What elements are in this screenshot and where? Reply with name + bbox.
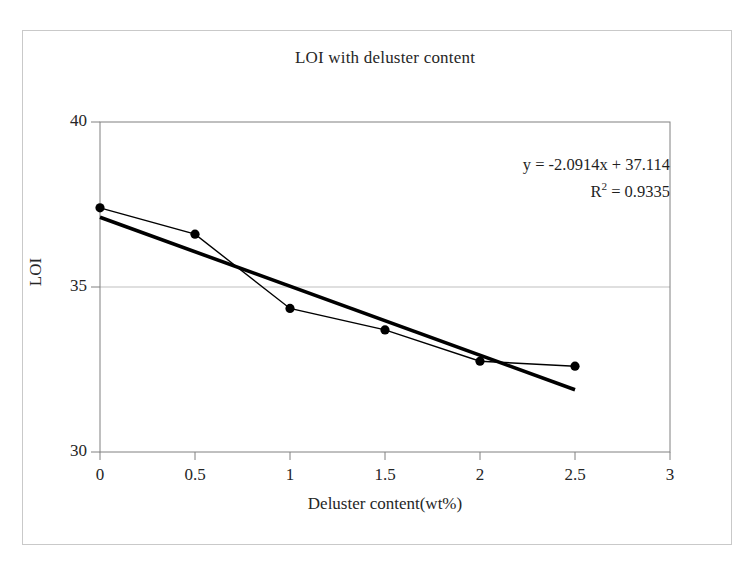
data-point-marker	[190, 230, 199, 239]
data-point-marker	[570, 362, 579, 371]
x-tick-label: 0.5	[172, 465, 218, 485]
y-tick-label: 35	[35, 276, 87, 296]
x-tick-label: 3	[647, 465, 693, 485]
data-series-layer	[95, 203, 579, 390]
figure-container: LOI with deluster content y = -2.0914x +…	[0, 0, 754, 571]
axis-ticks-group	[91, 122, 670, 460]
data-point-marker	[380, 325, 389, 334]
data-point-marker	[95, 203, 104, 212]
data-point-marker	[285, 304, 294, 313]
y-tick-label: 30	[35, 441, 87, 461]
x-tick-label: 2	[457, 465, 503, 485]
x-tick-label: 1.5	[362, 465, 408, 485]
x-tick-label: 2.5	[552, 465, 598, 485]
trendline-path	[100, 217, 575, 390]
chart-plot-svg	[0, 0, 754, 571]
x-tick-label: 1	[267, 465, 313, 485]
x-tick-label: 0	[77, 465, 123, 485]
y-tick-label: 40	[35, 111, 87, 131]
